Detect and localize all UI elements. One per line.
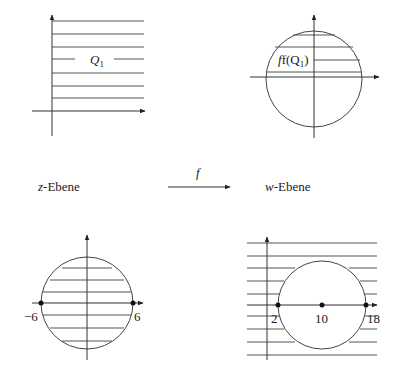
panel-w-half-disk: ff(Q1)	[250, 15, 379, 138]
region-label-f-q1: ff(Q1)	[278, 52, 309, 69]
point-minus-6	[39, 301, 44, 306]
w-plane-label: w-Ebene	[265, 179, 311, 194]
region-label-q1: Q1	[90, 52, 104, 69]
panel-w-exterior: 2 10 18	[247, 237, 380, 360]
tick-10: 10	[315, 311, 328, 326]
tick-minus-6: −6	[24, 309, 38, 324]
panel-z-quadrant: Q1	[32, 15, 145, 136]
panel-z-disk: −6 6	[24, 235, 143, 360]
point-6	[131, 301, 136, 306]
point-18	[364, 303, 369, 308]
map-label-f: f	[196, 165, 202, 180]
point-2	[276, 303, 281, 308]
z-plane-label: z-Ebene	[37, 179, 80, 194]
tick-18: 18	[367, 311, 380, 326]
tick-6: 6	[134, 309, 141, 324]
tick-2: 2	[271, 311, 278, 326]
point-10	[320, 303, 325, 308]
diagram-canvas: Q1 ff(Q1) z-Ebene f w-Ebene	[0, 0, 399, 380]
mapping-row: z-Ebene f w-Ebene	[37, 165, 311, 194]
